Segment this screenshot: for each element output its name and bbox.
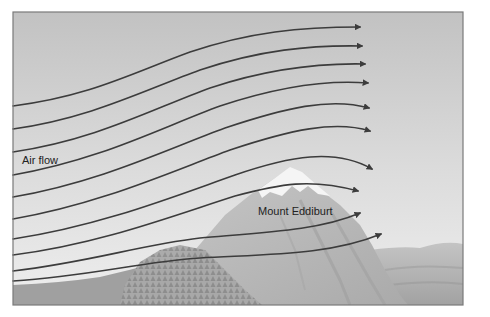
- air-flow-label: Air flow: [22, 154, 58, 166]
- orographic-airflow-diagram: Air flow Mount Eddiburt: [0, 0, 490, 317]
- diagram-canvas: [0, 0, 490, 317]
- mountain-label: Mount Eddiburt: [258, 205, 333, 217]
